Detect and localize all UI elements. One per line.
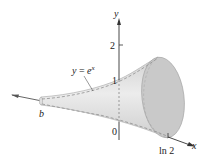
- x-axis-left-arrow: [11, 95, 42, 102]
- b-label: b: [39, 108, 44, 119]
- curve-label-exp: x: [91, 64, 96, 72]
- curve-label-eq: =: [76, 65, 87, 76]
- x-axis-label: x: [191, 140, 197, 151]
- curve-label: y = ex: [71, 64, 96, 76]
- y-tick-label-2: 2: [110, 40, 115, 51]
- curve-label-leader: [84, 76, 93, 91]
- solid-of-revolution-diagram: y 2 1 0 ln 2 x b y = ex: [0, 0, 205, 162]
- origin-label: 0: [112, 126, 117, 137]
- y-tick-label-1: 1: [112, 75, 117, 86]
- y-axis-label: y: [113, 8, 119, 19]
- ln2-label: ln 2: [159, 145, 174, 156]
